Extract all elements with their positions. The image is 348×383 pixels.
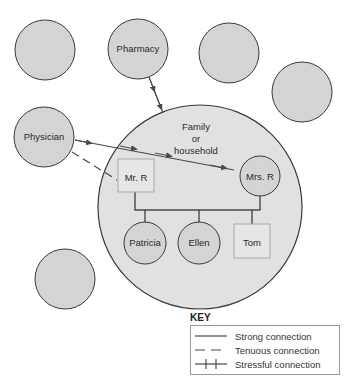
svg-text:Pharmacy: Pharmacy — [117, 43, 160, 54]
household-label-line-3: household — [174, 145, 218, 156]
dashed-line-icon — [195, 346, 227, 354]
external-node-empty-1 — [15, 20, 75, 80]
member-ellen: Ellen — [178, 222, 220, 264]
member-tom: Tom — [234, 224, 270, 258]
external-node-physician: Physician — [14, 107, 74, 167]
svg-text:Tom: Tom — [243, 237, 261, 248]
legend-item-strong: Strong connection — [195, 329, 335, 343]
svg-text:Patricia: Patricia — [129, 237, 161, 248]
legend-box: Strong connection Tenuous connection Str… — [190, 325, 340, 375]
household-label-line-2: or — [192, 133, 200, 144]
member-mr-r: Mr. R — [118, 159, 154, 192]
svg-text:Mrs. R: Mrs. R — [246, 171, 274, 182]
member-patricia: Patricia — [124, 222, 166, 264]
external-node-empty-2 — [199, 23, 259, 83]
svg-text:Ellen: Ellen — [188, 237, 209, 248]
legend-item-stressful: Stressful connection — [195, 357, 335, 371]
legend-title: KEY — [190, 312, 340, 323]
household-label-line-1: Family — [182, 121, 210, 132]
external-node-empty-3 — [272, 62, 332, 122]
crossed-line-icon — [195, 359, 227, 369]
svg-text:Physician: Physician — [24, 131, 65, 142]
svg-text:Mr. R: Mr. R — [125, 172, 148, 183]
solid-line-icon — [195, 332, 227, 340]
external-node-pharmacy: Pharmacy — [108, 19, 168, 79]
external-node-empty-4 — [35, 249, 95, 309]
member-mrs-r: Mrs. R — [240, 156, 280, 196]
legend: KEY Strong connection Tenuous connection… — [190, 312, 340, 375]
legend-item-tenuous: Tenuous connection — [195, 343, 335, 357]
